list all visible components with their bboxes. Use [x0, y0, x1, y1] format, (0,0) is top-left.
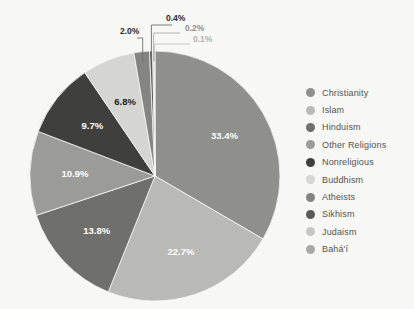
slice-value-label: 6.8%: [114, 96, 136, 107]
legend-item-judaism[interactable]: Judaism: [306, 223, 414, 240]
legend-item-label: Buddhism: [322, 175, 363, 185]
legend-color-swatch-icon: [306, 106, 315, 115]
legend-color-swatch-icon: [306, 245, 315, 254]
legend-color-swatch-icon: [306, 175, 315, 184]
slice-value-label: 22.7%: [167, 246, 194, 257]
legend-item-label: Islam: [322, 105, 344, 115]
legend-item-other-religions[interactable]: Other Religions: [306, 136, 414, 153]
chart-legend: ChristianityIslamHinduismOther Religions…: [306, 84, 414, 258]
legend-item-label: Hinduism: [322, 122, 361, 132]
legend-item-atheists[interactable]: Atheists: [306, 188, 414, 205]
legend-color-swatch-icon: [306, 123, 315, 132]
legend-color-swatch-icon: [306, 210, 315, 219]
legend-item-label: Nonreligious: [322, 157, 374, 167]
legend-item-label: Sikhism: [322, 209, 355, 219]
legend-item-label: Bahá'í: [322, 244, 348, 254]
legend-color-swatch-icon: [306, 227, 315, 236]
slice-callout-label: 2.0%: [120, 26, 140, 36]
legend-item-sikhism[interactable]: Sikhism: [306, 206, 414, 223]
pie-chart-figure: 33.4%22.7%13.8%10.9%9.7%6.8% 2.0%0.4%0.2…: [0, 0, 414, 309]
legend-item-label: Christianity: [322, 88, 368, 98]
legend-item-bah[interactable]: Bahá'í: [306, 241, 414, 258]
legend-item-hinduism[interactable]: Hinduism: [306, 119, 414, 136]
outside-label-group: 2.0%0.4%0.2%0.1%: [120, 13, 213, 44]
slice-value-label: 33.4%: [211, 130, 238, 141]
slice-callout-label: 0.1%: [193, 34, 213, 44]
legend-color-swatch-icon: [306, 193, 315, 202]
slice-callout-label: 0.2%: [185, 23, 205, 33]
legend-color-swatch-icon: [306, 158, 315, 167]
legend-item-nonreligious[interactable]: Nonreligious: [306, 154, 414, 171]
slice-value-label: 10.9%: [62, 168, 89, 179]
slice-value-label: 9.7%: [81, 120, 103, 131]
legend-item-buddhism[interactable]: Buddhism: [306, 171, 414, 188]
slice-callout-label: 0.4%: [166, 13, 186, 23]
slice-value-label: 13.8%: [83, 225, 110, 236]
legend-item-label: Atheists: [322, 192, 355, 202]
legend-item-christianity[interactable]: Christianity: [306, 84, 414, 101]
legend-item-islam[interactable]: Islam: [306, 101, 414, 118]
legend-item-label: Other Religions: [322, 140, 386, 150]
legend-item-label: Judaism: [322, 227, 357, 237]
legend-color-swatch-icon: [306, 140, 315, 149]
legend-color-swatch-icon: [306, 88, 315, 97]
